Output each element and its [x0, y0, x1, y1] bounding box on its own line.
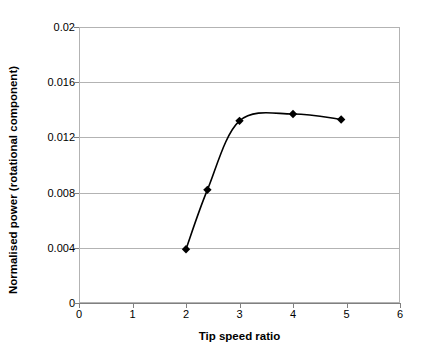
data-point-marker [289, 110, 297, 118]
data-point-marker [182, 245, 190, 253]
series-line [186, 113, 341, 249]
data-series-layer [0, 0, 422, 360]
data-point-marker [203, 186, 211, 194]
chart-figure: Normalised power (rotational component) … [0, 0, 422, 360]
data-point-marker [337, 115, 345, 123]
